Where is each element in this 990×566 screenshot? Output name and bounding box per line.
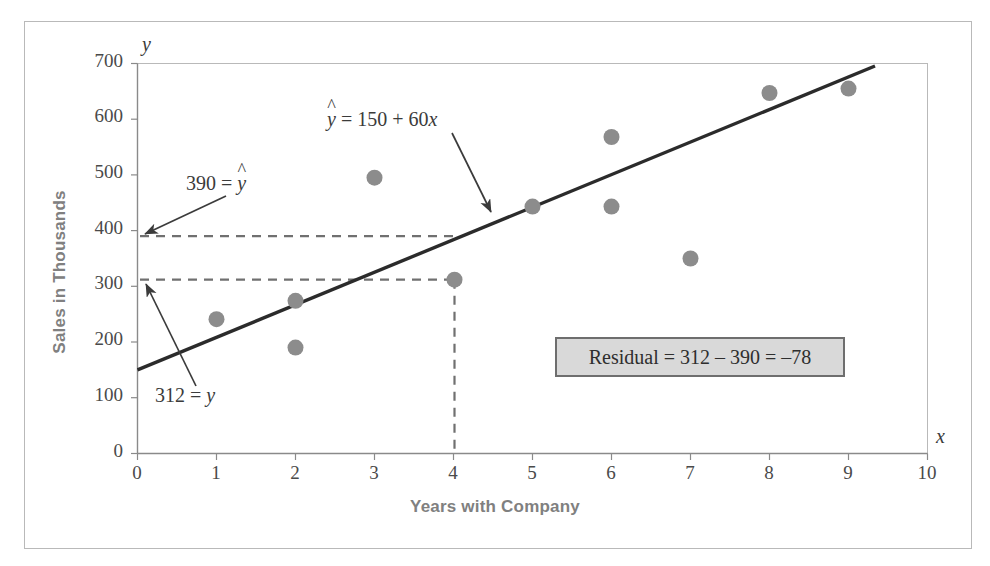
- data-points: [209, 81, 857, 356]
- y-tick-label: 500: [75, 161, 123, 183]
- x-tick-label: 9: [828, 462, 868, 484]
- observed-value-equals: =: [185, 384, 206, 406]
- y-tick-label: 0: [75, 440, 123, 462]
- arrow-to-regression-line: [452, 133, 491, 212]
- yhat-symbol: y^: [237, 172, 246, 195]
- y-tick-marks: [131, 64, 138, 454]
- x-axis-title: Years with Company: [0, 497, 990, 517]
- figure-root: 700 600 500 400 300 200 100 0 0 1 2 3 4 …: [0, 0, 990, 566]
- yhat-symbol: y^: [327, 108, 336, 131]
- equation-x-variable: x: [428, 108, 437, 130]
- y-tick-label: 600: [75, 105, 123, 127]
- x-tick-label: 3: [354, 462, 394, 484]
- hat-mark: ^: [237, 161, 246, 179]
- x-axis-variable-letter: x: [936, 425, 945, 448]
- fitted-value-equals: =: [216, 172, 237, 194]
- data-point: [447, 272, 463, 288]
- residual-callout-box: Residual = 312 – 390 = –78: [555, 337, 845, 377]
- data-point: [209, 311, 225, 327]
- y-axis-title: Sales in Thousands: [50, 122, 70, 422]
- y-tick-label: 400: [75, 217, 123, 239]
- x-tick-marks: [138, 454, 928, 461]
- arrow-to-yhat-390: [145, 196, 226, 234]
- x-tick-label: 7: [670, 462, 710, 484]
- data-point: [525, 199, 541, 215]
- x-tick-label: 8: [749, 462, 789, 484]
- x-tick-label: 5: [512, 462, 552, 484]
- annotation-arrows: [145, 133, 491, 386]
- data-point: [288, 293, 304, 309]
- data-point: [762, 85, 778, 101]
- regression-equation-label: y^ = 150 + 60x: [327, 108, 437, 131]
- y-tick-label: 300: [75, 272, 123, 294]
- data-point: [367, 170, 383, 186]
- arrow-to-y-312: [146, 284, 196, 386]
- data-point: [604, 199, 620, 215]
- observed-value-number: 312: [155, 384, 185, 406]
- data-point: [288, 340, 304, 356]
- fitted-value-number: 390: [186, 172, 216, 194]
- equation-body: = 150 + 60: [336, 108, 429, 130]
- residual-text: Residual = 312 – 390 = –78: [589, 346, 812, 369]
- x-tick-label: 1: [196, 462, 236, 484]
- y-tick-label: 700: [75, 50, 123, 72]
- observed-value-label: 312 = y: [155, 384, 215, 407]
- x-tick-label: 2: [275, 462, 315, 484]
- fitted-value-label: 390 = y^: [186, 172, 246, 195]
- y-tick-label: 200: [75, 328, 123, 350]
- data-point: [683, 251, 699, 267]
- y-tick-label: 100: [75, 384, 123, 406]
- x-tick-label: 4: [433, 462, 473, 484]
- observed-value-variable: y: [206, 384, 215, 406]
- axis-lines: [138, 64, 928, 454]
- regression-line: [138, 66, 876, 370]
- data-point: [604, 129, 620, 145]
- hat-mark: ^: [327, 97, 336, 115]
- y-axis-variable-letter: y: [142, 33, 151, 56]
- x-tick-label: 10: [907, 462, 947, 484]
- x-tick-label: 0: [117, 462, 157, 484]
- plot-frame: [138, 64, 928, 454]
- data-point: [841, 81, 857, 97]
- x-tick-label: 6: [591, 462, 631, 484]
